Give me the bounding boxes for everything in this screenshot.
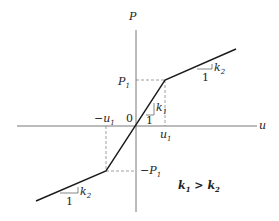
p-axis-label: P [128,10,137,23]
slope-lower-run: 1 [66,195,73,208]
p1-label: P1 [117,75,130,90]
slope-lower-k2-label: k2 [80,185,92,200]
slope-upper-k2-label: k2 [214,61,226,76]
u-axis-label: u [259,119,266,132]
neg-u1-label: −u1 [94,112,115,127]
condition-label: k1 > k2 [178,179,220,194]
slope-upper-run: 1 [202,71,209,84]
bilinear-diagram: P u 0 P1 −P1 u1 −u1 k1 1 k2 1 k2 1 k1 > … [0,0,279,221]
u1-label: u1 [160,128,172,143]
slope-k1-label: k1 [156,101,167,116]
slope-k1-run: 1 [146,114,153,127]
origin-label: 0 [126,112,133,125]
neg-p1-label: −P1 [140,164,161,179]
